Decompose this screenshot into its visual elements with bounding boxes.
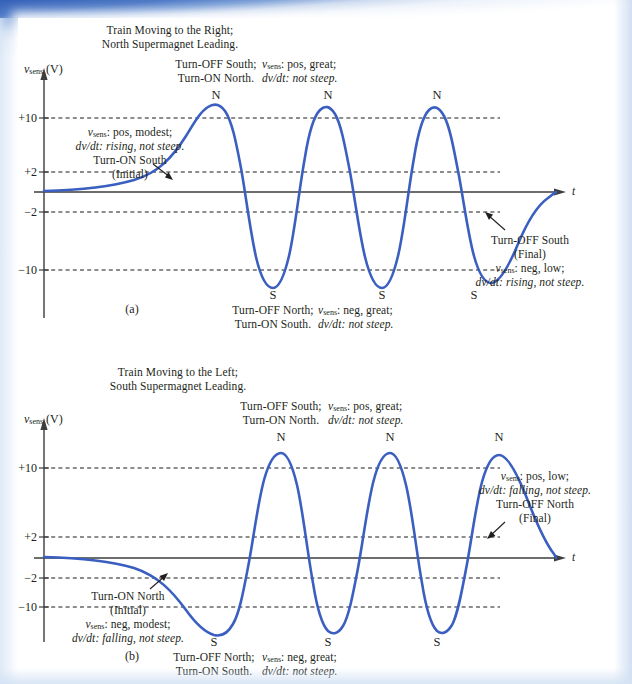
panel-a-plot [0, 0, 632, 342]
panel-a-bottom-event-line1: Turn-OFF North; [232, 304, 313, 318]
panel-b-top-event-line1: Turn-OFF South; [240, 400, 321, 414]
panel-a-ytick-plus10: +10 [18, 111, 37, 126]
panel-b-ytick-minus2: −2 [24, 571, 37, 586]
panel-a-ytick-plus2: +2 [24, 165, 37, 180]
gridlines-b [44, 468, 500, 607]
panel-a-ytick-minus2: −2 [24, 205, 37, 220]
y-axis-unit: (V) [43, 412, 63, 426]
sym-sub: sens [323, 308, 337, 317]
panel-a-bottom-event-line2: Turn-ON South. [235, 318, 311, 332]
panel-b: Train Moving to the Left; South Supermag… [0, 342, 632, 684]
panel-b-peak-marker-n-2: N [385, 430, 394, 445]
panel-b-initial-line1: Turn-ON North [91, 590, 164, 604]
panel-a-bottom-desc-line2: dv/dt: not steep. [318, 318, 393, 332]
panel-a-y-axis-label: vsens (V) [24, 62, 63, 77]
panel-b-peak-marker-s-2: S [325, 635, 332, 650]
panel-b-initial-line4: dv/dt: falling, not steep. [72, 632, 184, 646]
scan-edge-bottom [0, 668, 632, 684]
sym-sub: sens [267, 62, 281, 71]
sym-sub: sens [93, 130, 107, 139]
sym-sub: sens [91, 622, 105, 631]
panel-a-title-line1: Train Moving to the Right; [107, 24, 234, 38]
panel-a-final-line2: (Final) [514, 248, 546, 262]
panel-a-initial-line3: Turn-ON South [93, 154, 166, 168]
panel-a-initial-line2: dv/dt: rising, not steep. [76, 140, 185, 154]
panel-a-top-event-line1: Turn-OFF South; [175, 58, 256, 72]
panel-a: Train Moving to the Right; North Superma… [0, 0, 632, 342]
panel-b-peak-marker-n-1: N [276, 430, 285, 445]
sym-rest: : pos, great; [347, 400, 402, 412]
panel-b-ytick-plus10: +10 [18, 461, 37, 476]
panel-b-title-line2: South Supermagnet Leading. [110, 380, 246, 394]
y-axis-unit: (V) [43, 62, 63, 76]
panel-b-bottom-event-line1: Turn-OFF North; [173, 651, 254, 665]
sym-rest: : pos, low; [520, 470, 569, 482]
panel-b-ytick-plus2: +2 [24, 530, 37, 545]
panel-b-label: (b) [125, 649, 139, 664]
panel-a-top-desc-line2: dv/dt: not steep. [262, 72, 337, 86]
panel-b-final-line3: Turn-OFF North [496, 498, 574, 512]
panel-b-top-desc-line2: dv/dt: not steep. [328, 414, 403, 428]
panel-a-final-line1: Turn-OFF South [491, 234, 569, 248]
panel-a-title-line2: North Supermagnet Leading. [102, 38, 238, 52]
panel-b-final-line4: (Final) [519, 512, 551, 526]
sym-sub: sens [506, 474, 520, 483]
panel-b-peak-marker-s-1: S [211, 635, 218, 650]
panel-b-x-axis-label: t [572, 551, 575, 565]
sym-rest: : pos, great; [281, 58, 336, 70]
panel-b-initial-line2: (Initial) [110, 604, 146, 618]
panel-a-peak-marker-n-1: N [211, 88, 220, 103]
panel-a-label: (a) [125, 302, 138, 317]
panel-a-peak-marker-n-2: N [323, 88, 332, 103]
scan-edge-left [0, 18, 18, 684]
sym-sub: sens [333, 404, 347, 413]
panel-b-final-line2: dv/dt: falling, not steep. [479, 484, 591, 498]
scanned-figure-page: Train Moving to the Right; North Superma… [0, 0, 632, 684]
panel-b-peak-marker-s-3: S [434, 635, 441, 650]
panel-b-title-line1: Train Moving to the Left; [118, 366, 238, 380]
sym-rest: : neg, low; [515, 262, 565, 274]
sym-sub: sens [267, 655, 281, 664]
panel-b-top-event-line2: Turn-ON North. [243, 414, 319, 428]
panel-a-top-event-line2: Turn-ON North. [178, 72, 254, 86]
panel-a-initial-line4: (Initial) [112, 168, 148, 182]
sym-sub: sens [501, 266, 515, 275]
panel-a-peak-marker-s-1: S [270, 288, 277, 303]
panel-a-x-axis-label: t [572, 185, 575, 199]
sym-rest: : neg, great; [337, 304, 393, 316]
panel-b-peak-marker-n-3: N [494, 430, 503, 445]
y-axis-subscript: sens [29, 417, 43, 426]
sym-rest: : neg, modest; [104, 618, 170, 630]
scan-edge-right [614, 0, 632, 684]
panel-a-final-line4: dv/dt: rising, not steep. [476, 276, 585, 290]
panel-a-peak-marker-s-2: S [379, 288, 386, 303]
panel-a-ytick-minus10: −10 [18, 263, 37, 278]
panel-b-y-axis-label: vsens (V) [24, 412, 63, 427]
panel-b-ytick-minus10: −10 [18, 600, 37, 615]
sym-rest: : neg, great; [281, 651, 337, 663]
panel-a-peak-marker-n-3: N [432, 88, 441, 103]
sym-rest: : pos, modest; [107, 126, 173, 138]
y-axis-subscript: sens [29, 67, 43, 76]
panel-a-peak-marker-s-3: S [471, 288, 478, 303]
